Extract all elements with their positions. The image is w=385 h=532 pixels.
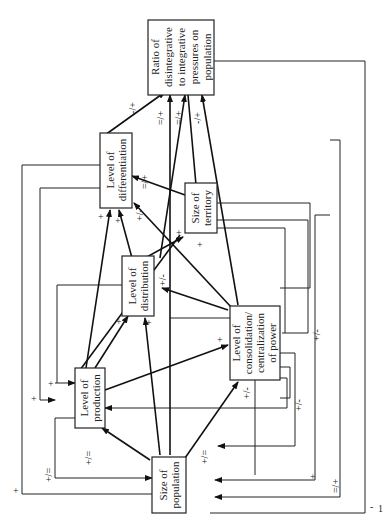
consolidation-line-4: of power	[266, 323, 278, 363]
territory-line-1: Size of	[189, 192, 201, 223]
node-differentiation: Level of differentiation	[100, 133, 132, 208]
causal-diagram: Ratio of disintegrative to integrative p…	[0, 0, 385, 532]
label-cons-diff: +/-	[134, 209, 145, 221]
node-distribution: Level of distribution	[122, 256, 154, 316]
loop-outer-left	[22, 165, 152, 494]
arrow-pop-cons	[185, 382, 238, 458]
diagram-svg: Ratio of disintegrative to integrative p…	[0, 0, 385, 532]
label-prod-terr: +	[197, 239, 203, 250]
label-outer-left-loop: +	[13, 485, 19, 496]
label-pop-dist: +	[146, 317, 152, 328]
label-prod-loop-pop: +/=	[43, 468, 54, 482]
ratio-line-1: Ratio of	[149, 39, 161, 75]
label-terr-ratio: -/+	[192, 112, 203, 124]
node-consolidation: Level of consolidation/ centralization o…	[230, 306, 280, 380]
node-territory: Size of territory	[185, 183, 217, 233]
label-dist-loop-prod: +	[48, 378, 54, 389]
node-population: Size of population	[152, 457, 186, 513]
production-line-1: Level of	[78, 379, 90, 416]
label-prod-cons: +	[217, 334, 223, 345]
population-line-2: population	[169, 461, 181, 509]
ratio-line-3: to integrative	[175, 28, 187, 86]
arrow-dist-terr	[145, 237, 183, 258]
node-ratio: Ratio of disintegrative to integrative p…	[148, 20, 214, 95]
arrow-cons-dist	[162, 288, 228, 310]
label-terr-diff: =/+	[139, 175, 150, 189]
loop-consolidation-to-production	[105, 378, 287, 408]
arrow-dist-diff	[119, 210, 132, 258]
differentiation-line-1: Level of	[104, 151, 116, 188]
arrow-pop-prod	[102, 428, 150, 460]
consolidation-line-2: consolidation/	[242, 311, 254, 374]
label-right-loop-2: =/+	[330, 479, 341, 493]
label-prod-dist: +	[116, 316, 122, 327]
arrow-prod-diff	[86, 210, 110, 368]
differentiation-line-2: differentiation	[116, 138, 128, 201]
arrow-prod-cons	[105, 345, 228, 390]
label-diff-ratio: -/+	[127, 102, 138, 114]
loop-ratio-to-population	[210, 61, 365, 513]
label-cons-dist: +/-	[157, 274, 168, 286]
distribution-line-2: distribution	[138, 260, 150, 311]
page-number: 1	[378, 503, 383, 514]
territory-line-2: territory	[201, 189, 213, 226]
label-pop-cons: +/-	[241, 387, 252, 399]
ratio-line-2: disintegrative	[162, 27, 174, 87]
label-diff-loop-prod: +	[31, 393, 37, 404]
production-line-2: production	[90, 374, 102, 422]
label-terr-loop-cons: +/-	[311, 329, 322, 341]
label-pop-ratio: =/+	[155, 111, 166, 125]
loop-territory-hor-a	[216, 203, 310, 288]
label-dist-terr: +	[176, 227, 182, 238]
label-right-loop-1: +	[310, 471, 316, 482]
label-ratio-loop: -	[370, 501, 373, 512]
consolidation-line-1: Level of	[230, 324, 242, 361]
label-cons-loop-prod: +/-	[293, 399, 304, 411]
label-dist-diff: +	[115, 215, 121, 226]
consolidation-line-3: centralization	[254, 313, 266, 373]
label-dist-ratio: =/+	[173, 111, 184, 125]
ratio-line-5: population	[201, 33, 213, 81]
ratio-line-4: pressures on	[188, 29, 200, 84]
label-prod-diff: +	[98, 211, 104, 222]
label-cons-loop-pop: +/=	[199, 450, 210, 464]
arrow-pop-dist	[145, 318, 160, 455]
label-pop-prod: +/=	[83, 451, 94, 465]
distribution-line-1: Level of	[126, 267, 138, 304]
population-line-1: Size of	[157, 469, 169, 500]
node-production: Level of production	[75, 368, 105, 428]
